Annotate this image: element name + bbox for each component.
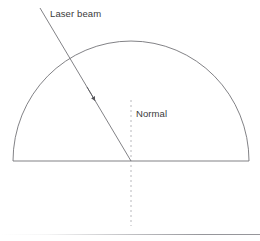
laser-beam-ray (40, 8, 131, 161)
bottom-divider (0, 234, 260, 235)
laser-beam-direction-arrow-icon (87, 87, 95, 101)
optics-diagram (0, 0, 260, 241)
laser-beam-label: Laser beam (50, 8, 101, 19)
normal-label: Normal (136, 108, 167, 119)
figure-canvas: Laser beam Normal (0, 0, 260, 241)
